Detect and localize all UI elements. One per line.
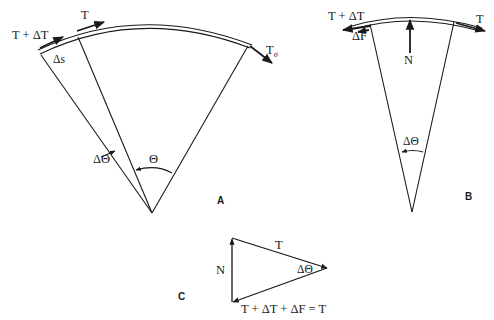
delta-theta-arc [402,151,423,153]
theta-arc [136,168,172,173]
resultant-vector [233,268,327,302]
label-tension-plus: T + ΔT [12,28,49,42]
label-tension-sigma-sub: σ [274,50,279,59]
panel-b: T + ΔT ΔF N T ΔΘ B [328,9,485,212]
panel-a: T + ΔT T Δs Tσ ΔΘ Θ A [12,8,279,213]
panel-letter-c: C [178,291,185,302]
radius-line-middle [78,37,152,213]
label-tension: T [81,8,89,22]
label-delta-theta: ΔΘ [403,135,419,147]
label-delta-theta: ΔΘ [93,152,110,166]
label-arc-length: Δs [53,53,65,65]
label-tension-plus: T + ΔT [328,9,365,23]
label-tension: T [476,12,484,26]
label-normal: N [216,263,225,277]
belt-arc-inner [40,28,250,54]
label-equation: T + ΔT + ΔF = T [241,302,327,316]
label-normal: N [404,53,413,67]
radius-line-right [152,46,248,213]
radius-line-right [412,22,454,212]
label-friction: ΔF [352,29,367,43]
radius-line-left [41,55,152,213]
panel-letter-a: A [217,195,224,206]
label-delta-theta: ΔΘ [297,263,313,275]
label-tension: T [275,238,283,252]
panel-letter-b: B [465,191,472,202]
panel-c: T N ΔΘ T + ΔT + ΔF = T C [178,238,327,316]
label-theta: Θ [149,152,158,166]
label-tension-sigma: Tσ [266,43,279,59]
belt-friction-diagram: T + ΔT T Δs Tσ ΔΘ Θ A T + ΔT ΔF N T ΔΘ B [0,0,494,320]
